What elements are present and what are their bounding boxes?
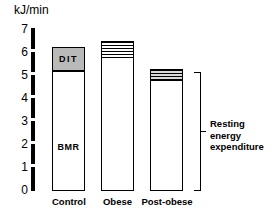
- y-axis-unit-label: kJ/min: [14, 3, 49, 17]
- bar-control-bmr[interactable]: BMR: [52, 71, 85, 191]
- bar-post-obese-bmr[interactable]: [150, 80, 183, 191]
- bar-control-dit[interactable]: DIT: [52, 47, 85, 71]
- y-tick-label-5: 5: [12, 69, 28, 81]
- bar-post-obese-dit[interactable]: [150, 69, 183, 81]
- y-axis-gap-1: [31, 164, 35, 167]
- ree-line-2: energy: [210, 130, 264, 142]
- y-tick-label-4: 4: [12, 92, 28, 104]
- y-axis-gap-6: [31, 49, 35, 52]
- y-tick-label-2: 2: [12, 138, 28, 150]
- bracket-top-arm: [194, 72, 201, 73]
- x-label-post-obese: Post-obese: [138, 196, 196, 207]
- ree-line-3: expenditure: [210, 141, 264, 153]
- y-tick-label-3: 3: [12, 115, 28, 127]
- chart-canvas: kJ/min 7 6 5 4 3 2 1 0 BMR DIT Control O…: [0, 0, 272, 224]
- y-tick-label-6: 6: [12, 46, 28, 58]
- y-axis-gap-3: [31, 118, 35, 121]
- y-axis-gap-5: [31, 72, 35, 75]
- y-axis-gap-2: [31, 141, 35, 144]
- resting-energy-expenditure-label: Resting energy expenditure: [210, 118, 264, 153]
- ree-line-1: Resting: [210, 118, 264, 130]
- x-label-control: Control: [52, 196, 85, 207]
- bracket-bottom-arm: [194, 190, 201, 191]
- x-label-obese: Obese: [101, 196, 134, 207]
- y-tick-label-1: 1: [12, 161, 28, 173]
- bar-obese-bmr[interactable]: [101, 57, 134, 191]
- y-tick-label-0: 0: [12, 184, 28, 196]
- dit-label-control: DIT: [53, 54, 84, 64]
- y-axis-gap-4: [31, 95, 35, 98]
- bar-obese-dit[interactable]: [101, 41, 134, 58]
- y-tick-label-7: 7: [12, 23, 28, 35]
- bmr-label-control: BMR: [53, 142, 84, 152]
- bracket-pointer: [200, 131, 206, 132]
